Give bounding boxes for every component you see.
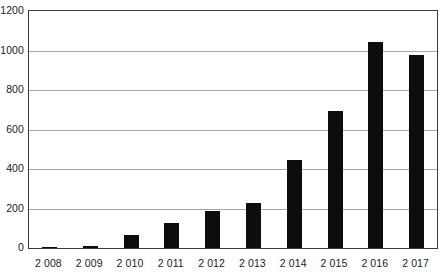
x-axis-tick-label: 2 015 <box>321 258 348 269</box>
x-axis-tick-label: 2 013 <box>239 258 266 269</box>
y-axis-tick-label: 800 <box>0 84 24 95</box>
bar <box>246 203 261 248</box>
x-axis-tick-label: 2 009 <box>76 258 103 269</box>
x-axis-tick-label: 2 011 <box>158 258 184 269</box>
plot-area <box>28 10 438 249</box>
bar <box>83 246 98 248</box>
y-axis: 020040060080010001200 <box>0 0 24 278</box>
bar-chart: 020040060080010001200 2 0082 0092 0102 0… <box>0 0 444 278</box>
bar <box>205 211 220 248</box>
bar <box>368 42 383 248</box>
y-axis-tick-label: 1000 <box>0 44 24 55</box>
y-axis-tick-label: 0 <box>0 242 24 253</box>
x-axis-tick-label: 2 016 <box>361 258 388 269</box>
bar <box>164 223 179 248</box>
y-axis-tick-label: 200 <box>0 202 24 213</box>
x-axis-tick-label: 2 012 <box>198 258 225 269</box>
x-axis-tick-label: 2 010 <box>117 258 144 269</box>
bar <box>42 247 57 249</box>
y-axis-tick-label: 1200 <box>0 5 24 16</box>
x-axis-tick-label: 2 008 <box>35 258 62 269</box>
bar <box>124 235 139 248</box>
y-axis-tick-label: 600 <box>0 123 24 134</box>
bar <box>409 55 424 248</box>
bar <box>328 111 343 248</box>
bar <box>287 160 302 248</box>
bars-group <box>29 11 437 248</box>
x-axis: 2 0082 0092 0102 0112 0122 0132 0142 015… <box>28 253 438 273</box>
y-axis-tick-label: 400 <box>0 163 24 174</box>
x-axis-tick-label: 2 014 <box>280 258 307 269</box>
x-axis-tick-label: 2 017 <box>402 258 429 269</box>
